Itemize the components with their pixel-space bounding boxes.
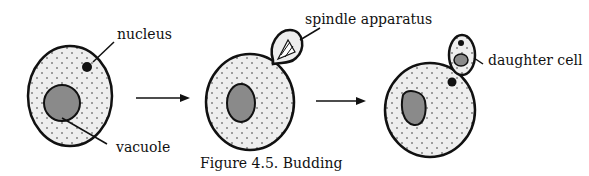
arrow-right-icon [136,94,190,102]
divided-cell [385,35,483,157]
daughter-cell-label: daughter cell [488,53,582,67]
parent-cell [28,42,114,146]
figure-caption: Figure 4.5. Budding [200,156,342,170]
nucleus-icon [82,62,92,72]
vacuole-label: vacuole [116,140,170,154]
budding-figure: nucleus vacuole spindle apparatus daught… [0,0,589,176]
spindle-apparatus-label: spindle apparatus [305,12,432,26]
arrow-right-icon [316,97,366,105]
budding-cell [206,28,320,150]
nucleus-label: nucleus [117,27,172,41]
budding-diagram [0,0,589,176]
